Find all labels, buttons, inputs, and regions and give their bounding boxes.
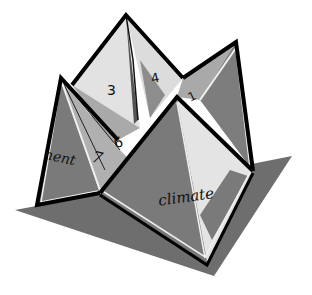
fortune-teller-illustration: 3 4 1 6 7 nent climate xyxy=(0,0,312,295)
fortune-teller-svg: 3 4 1 6 7 nent climate xyxy=(0,0,312,295)
label-3: 3 xyxy=(107,82,116,98)
